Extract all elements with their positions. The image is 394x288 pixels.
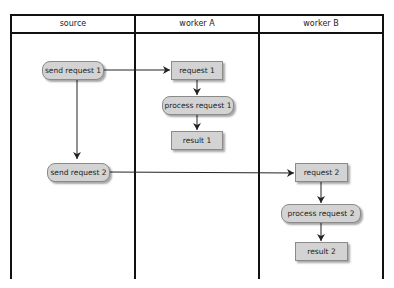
node-send-request-2: send request 2	[47, 163, 110, 182]
node-process-request-1: process request 1	[162, 96, 234, 115]
node-result-1: result 1	[171, 131, 223, 150]
node-request-1: request 1	[171, 61, 223, 80]
node-process-request-2: process request 2	[281, 204, 361, 223]
node-send-request-1: send request 1	[42, 61, 104, 80]
node-result-2: result 2	[295, 242, 348, 261]
node-request-2: request 2	[295, 163, 348, 182]
